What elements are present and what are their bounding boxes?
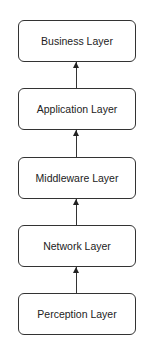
middleware-layer-label: Middleware Layer — [36, 172, 119, 184]
network-layer-label: Network Layer — [43, 240, 111, 252]
business-layer-box: Business Layer — [18, 20, 136, 62]
business-layer-label: Business Layer — [41, 35, 113, 47]
arrow-up-icon — [76, 267, 77, 293]
application-layer-box: Application Layer — [18, 88, 136, 130]
application-layer-label: Application Layer — [37, 103, 118, 115]
network-layer-box: Network Layer — [18, 225, 136, 267]
arrow-up-icon — [76, 62, 77, 88]
perception-layer-box: Perception Layer — [18, 293, 136, 335]
middleware-layer-box: Middleware Layer — [18, 157, 136, 199]
arrow-up-icon — [76, 199, 77, 225]
perception-layer-label: Perception Layer — [37, 308, 116, 320]
arrow-up-icon — [76, 130, 77, 157]
